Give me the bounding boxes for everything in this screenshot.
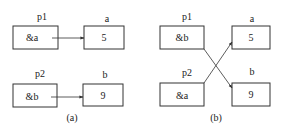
arrow-p1-to-b: [204, 49, 232, 88]
variable-value-a: 5: [102, 32, 107, 43]
variable-label-a: a: [250, 13, 255, 24]
panel-a: p1 &a a 5 p2 &b b 9 (a): [13, 11, 124, 124]
pointer-value-p1: &a: [26, 32, 39, 43]
caption-a: (a): [66, 112, 77, 124]
variable-value-a: 5: [249, 32, 254, 43]
variable-value-b: 9: [101, 90, 106, 101]
variable-label-b: b: [103, 69, 108, 80]
pointer-label-p2: p2: [35, 68, 45, 79]
pointer-value-p2: &a: [176, 90, 189, 101]
pointer-value-p2: &b: [26, 91, 39, 102]
pointer-label-p2: p2: [182, 67, 192, 78]
arrow-p2-to-a: [204, 42, 232, 83]
variable-value-b: 9: [249, 89, 254, 100]
caption-b: (b): [210, 112, 222, 124]
variable-label-a: a: [105, 13, 110, 24]
pointer-swap-diagram: p1 &a a 5 p2 &b b 9 (a) p1 &b a 5 p2 &a …: [0, 0, 282, 132]
panel-b: p1 &b a 5 p2 &a b 9 (b): [160, 11, 270, 124]
pointer-value-p1: &b: [176, 32, 189, 43]
variable-label-b: b: [250, 66, 255, 77]
pointer-label-p1: p1: [182, 11, 192, 22]
pointer-label-p1: p1: [37, 11, 47, 22]
